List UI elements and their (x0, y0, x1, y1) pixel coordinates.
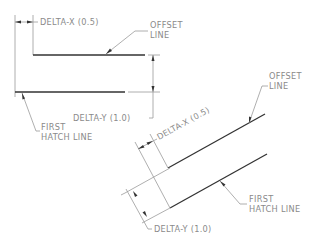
offset-label-line2: LINE (150, 30, 169, 40)
first-hatch-label-line1-rotated: FIRST (249, 194, 274, 204)
delta-x-extension-hatch (135, 142, 170, 208)
delta-y-label-rotated: DELTA-Y (1.0) (154, 224, 212, 234)
arrow-icon (15, 21, 21, 24)
offset-label-line2-rotated: LINE (269, 81, 288, 91)
offset-leader (106, 31, 148, 54)
first-hatch-leader (22, 93, 40, 131)
first-hatch-label-line2: HATCH LINE (41, 132, 92, 142)
delta-y-label: DELTA-Y (1.0) (73, 113, 131, 123)
arrow-icon (220, 181, 226, 187)
arrow-icon (22, 93, 25, 100)
hatch-projection-line (125, 168, 170, 193)
first-hatch-label-line2-rotated: HATCH LINE (249, 204, 300, 214)
arrow-icon (143, 211, 148, 217)
delta-x-label-rotated: DELTA-X (0.5) (155, 105, 211, 142)
arrow-icon (152, 55, 155, 61)
bottom-diagram: DELTA-X (0.5) DELTA-Y (1.0) OFFSET LINE … (121, 71, 303, 234)
hatch-offset-diagram: DELTA-X (0.5) DELTA-Y (1.0) OFFSET LINE … (0, 0, 321, 245)
arrow-icon (147, 141, 154, 145)
offset-label-line1: OFFSET (150, 20, 184, 30)
arrow-icon (27, 21, 33, 24)
delta-y-extension-top (121, 193, 125, 195)
arrow-icon (106, 49, 112, 55)
arrow-icon (138, 145, 145, 149)
arrow-icon (152, 86, 155, 92)
offset-label-line1-rotated: OFFSET (269, 71, 303, 81)
top-diagram: DELTA-X (0.5) DELTA-Y (1.0) OFFSET LINE … (15, 15, 184, 142)
first-hatch-label-line1: FIRST (41, 122, 66, 132)
delta-x-label: DELTA-X (0.5) (40, 17, 99, 27)
arrow-icon (133, 191, 138, 197)
